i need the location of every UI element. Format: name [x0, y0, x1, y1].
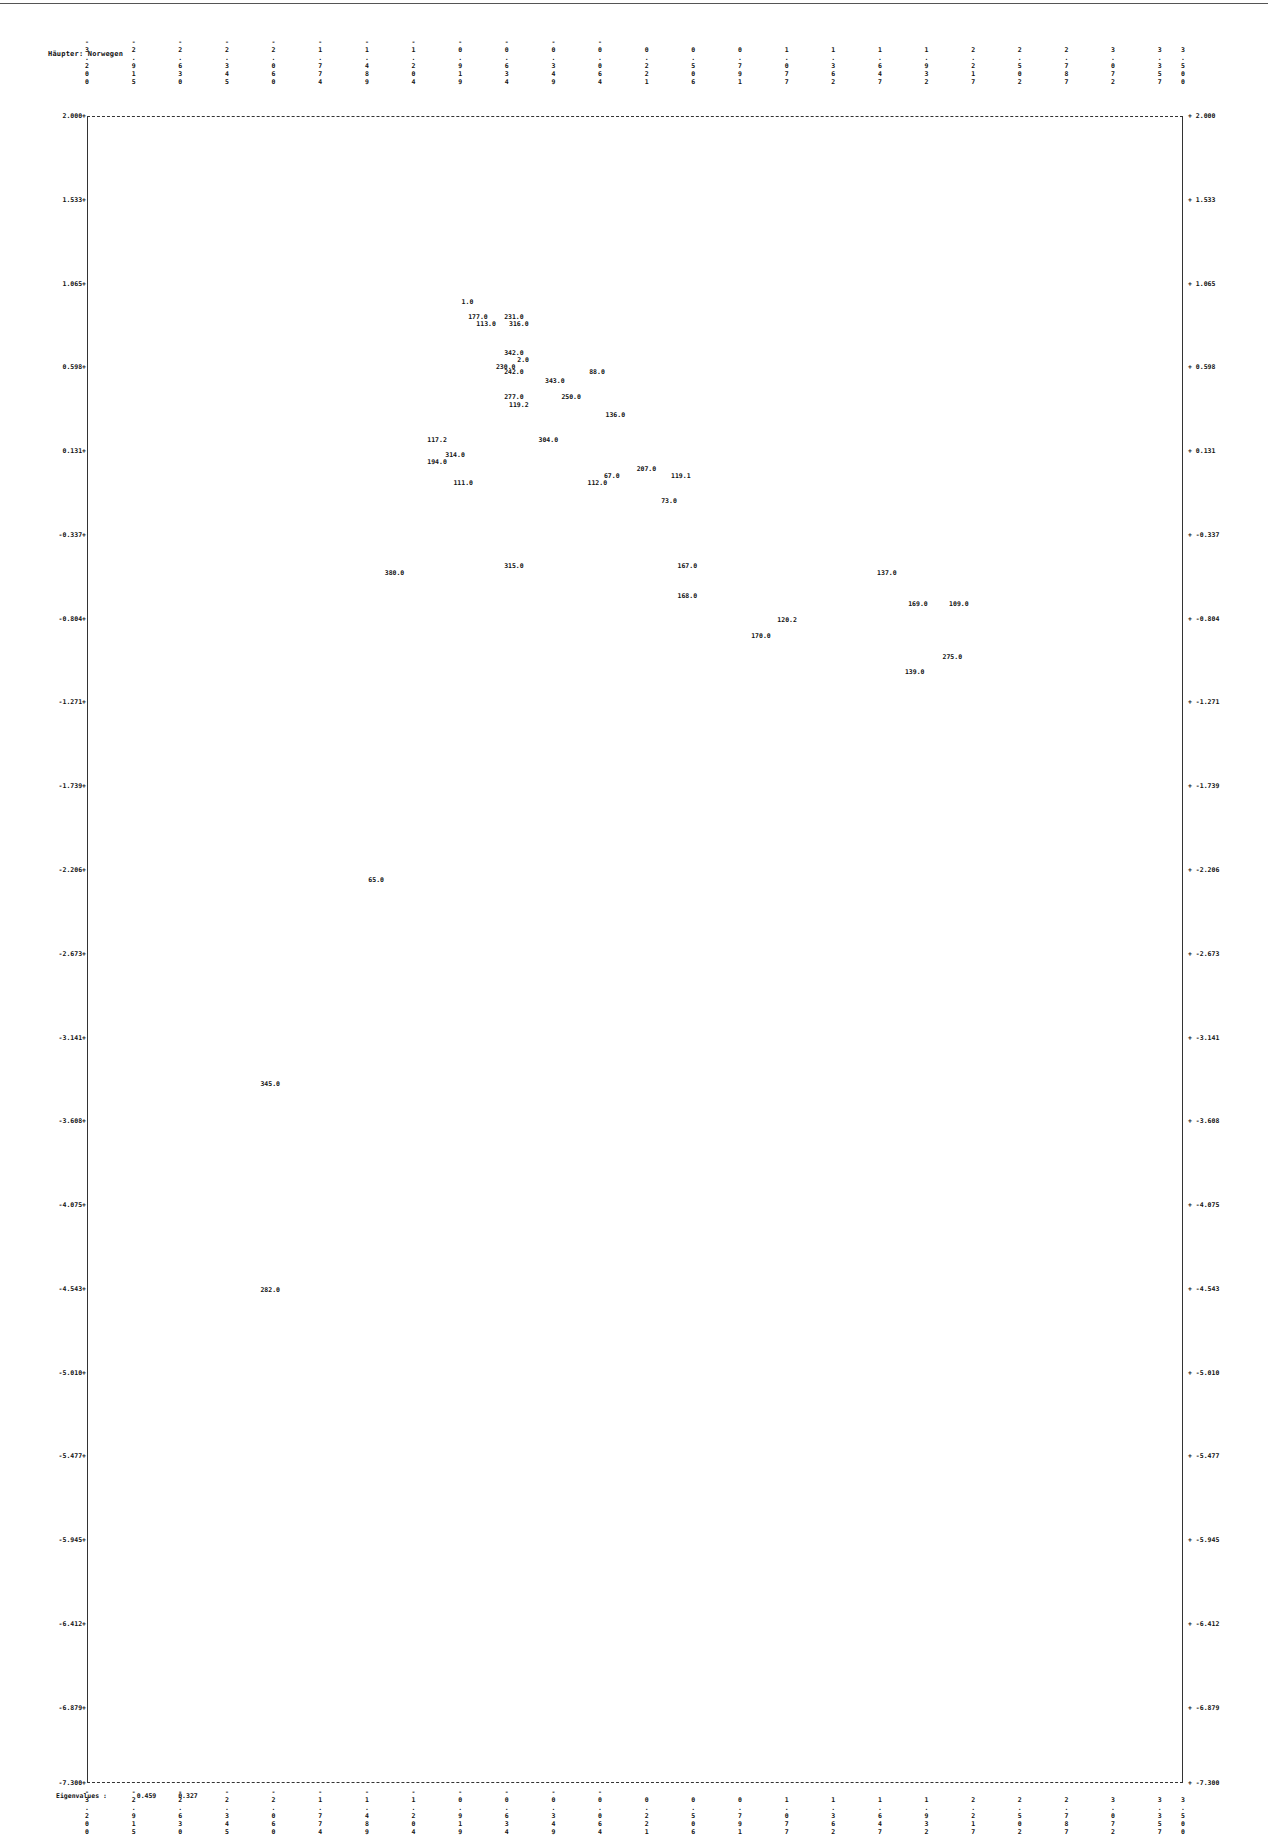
x-tick-label: - 0 . 9 1 9 [455, 1788, 465, 1836]
y-tick-label-left: 0.131+ [63, 447, 86, 455]
x-tick-label: - 2 . 0 6 0 [268, 1788, 278, 1836]
data-point-label: 136.0 [606, 411, 626, 419]
x-tick-label: 2 . 2 1 7 [968, 38, 978, 86]
x-tick-label: 0 . 7 9 1 [735, 38, 745, 86]
x-tick-label: - 1 . 4 8 9 [362, 38, 372, 86]
y-tick-label-left: 1.533+ [63, 196, 86, 204]
x-tick-label: 2 . 7 8 7 [1061, 38, 1071, 86]
data-point-label: 167.0 [678, 562, 698, 570]
x-tick-label: - 2 . 9 1 5 [129, 38, 139, 86]
data-point-label: 314.0 [445, 451, 465, 459]
data-point-label: 119.1 [671, 472, 691, 480]
y-tick-label-right: + -6.879 [1188, 1704, 1219, 1712]
y-tick-label-right: + -0.337 [1188, 531, 1219, 539]
data-point-label: 304.0 [538, 436, 558, 444]
x-tick-label: - 0 . 6 3 4 [502, 1788, 512, 1836]
y-tick-label-left: -1.271+ [59, 698, 86, 706]
y-tick-label-right: + 1.065 [1188, 280, 1215, 288]
y-tick-label-right: + -1.739 [1188, 782, 1219, 790]
y-axis-left [87, 116, 88, 1783]
y-tick-label-right: + -4.075 [1188, 1201, 1219, 1209]
x-tick-label: 1 . 3 6 2 [828, 38, 838, 86]
y-tick-label-left: -3.608+ [59, 1117, 86, 1125]
y-tick-label-right: + -3.608 [1188, 1117, 1219, 1125]
y-tick-label-right: + -1.271 [1188, 698, 1219, 706]
x-tick-label: 3 . 0 7 2 [1108, 38, 1118, 86]
x-tick-label: 3 . 5 0 0 [1178, 38, 1188, 86]
x-tick-label: - 0 . 0 6 4 [595, 1788, 605, 1836]
data-point-label: 168.0 [678, 592, 698, 600]
data-point-label: 117.2 [427, 436, 447, 444]
y-tick-label-left: -3.141+ [59, 1034, 86, 1042]
y-tick-label-left: -5.477+ [59, 1452, 86, 1460]
data-point-label: 315.0 [504, 562, 524, 570]
x-tick-label: 1 . 6 4 7 [875, 38, 885, 86]
x-tick-label: 2 . 2 1 7 [968, 1788, 978, 1836]
x-tick-label: - 2 . 0 6 0 [268, 38, 278, 86]
plot-area: 1.0177.0231.0113.0316.0342.02.0230.0242.… [87, 116, 1183, 1783]
y-tick-label-right: + -6.412 [1188, 1620, 1219, 1628]
y-tick-label-left: -6.412+ [59, 1620, 86, 1628]
data-point-label: 112.0 [588, 479, 608, 487]
x-tick-label: - 1 . 4 8 9 [362, 1788, 372, 1836]
x-tick-label: 3 . 5 0 0 [1178, 1788, 1188, 1836]
eigenvalues-footer: Eigenvalues : 0.459 0.327 [56, 1792, 198, 1800]
y-tick-label-right: + -5.477 [1188, 1452, 1219, 1460]
data-point-label: 275.0 [943, 653, 963, 661]
y-tick-label-left: -4.543+ [59, 1285, 86, 1293]
data-point-label: 380.0 [385, 569, 405, 577]
x-tick-label: - 0 . 3 4 9 [548, 38, 558, 86]
x-tick-label: - 2 . 3 4 5 [222, 38, 232, 86]
page-top-rule [0, 3, 1268, 4]
x-tick-label: - 2 . 6 3 0 [175, 38, 185, 86]
x-tick-label: - 0 . 3 4 9 [548, 1788, 558, 1836]
data-point-label: 111.0 [453, 479, 473, 487]
data-point-label: 282.0 [260, 1286, 280, 1294]
y-tick-label-left: -7.300+ [59, 1779, 86, 1787]
data-point-label: 1.0 [462, 298, 474, 306]
x-tick-label: 3 . 3 5 7 [1155, 38, 1165, 86]
data-point-label: 316.0 [509, 320, 529, 328]
x-tick-label: - 0 . 6 3 4 [502, 38, 512, 86]
x-tick-label: 2 . 5 0 2 [1015, 38, 1025, 86]
x-tick-label: 1 . 3 6 2 [828, 1788, 838, 1836]
data-point-label: 139.0 [905, 668, 925, 676]
plot-frame-top [87, 116, 1183, 117]
x-tick-label: 0 . 2 2 1 [642, 1788, 652, 1836]
y-tick-label-right: + -5.945 [1188, 1536, 1219, 1544]
data-point-label: 113.0 [476, 320, 496, 328]
x-tick-label: - 2 . 3 4 5 [222, 1788, 232, 1836]
x-tick-label: 1 . 6 4 7 [875, 1788, 885, 1836]
x-tick-label: - 1 . 7 7 4 [315, 1788, 325, 1836]
y-tick-label-right: + 2.000 [1188, 112, 1215, 120]
data-point-label: 345.0 [260, 1080, 280, 1088]
y-tick-label-left: -5.010+ [59, 1369, 86, 1377]
data-point-label: 194.0 [427, 458, 447, 466]
x-tick-label: - 1 . 2 0 4 [409, 1788, 419, 1836]
y-tick-label-right: + -4.543 [1188, 1285, 1219, 1293]
y-tick-label-right: + -7.300 [1188, 1779, 1219, 1787]
x-tick-label: - 1 . 7 7 4 [315, 38, 325, 86]
eigenvalue-1: 0.459 [137, 1792, 157, 1800]
data-point-label: 170.0 [751, 632, 771, 640]
eigenvalue-2: 0.327 [178, 1792, 198, 1800]
y-tick-label-right: + 0.598 [1188, 363, 1215, 371]
y-tick-label-right: + -2.206 [1188, 866, 1219, 874]
x-tick-label: 2 . 7 8 7 [1061, 1788, 1071, 1836]
y-tick-label-left: -6.879+ [59, 1704, 86, 1712]
x-tick-label: 0 . 5 0 6 [688, 38, 698, 86]
x-tick-label: - 3 . 2 0 0 [82, 38, 92, 86]
data-point-label: 119.2 [509, 401, 529, 409]
data-point-label: 88.0 [589, 368, 605, 376]
x-tick-label: 1 . 0 7 7 [782, 38, 792, 86]
x-tick-label: 1 . 9 3 2 [922, 1788, 932, 1836]
x-tick-label: 3 . 3 5 7 [1155, 1788, 1165, 1836]
data-point-label: 109.0 [949, 600, 969, 608]
x-tick-label: 0 . 7 9 1 [735, 1788, 745, 1836]
y-tick-label-left: -0.337+ [59, 531, 86, 539]
x-tick-label: - 0 . 0 6 4 [595, 38, 605, 86]
y-tick-label-right: + -3.141 [1188, 1034, 1219, 1042]
data-point-label: 137.0 [877, 569, 897, 577]
y-tick-label-right: + -0.804 [1188, 615, 1219, 623]
eigenvalues-label: Eigenvalues : [56, 1792, 107, 1800]
